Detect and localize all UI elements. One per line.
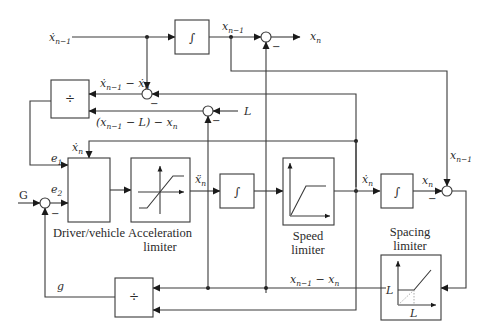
label-g: g xyxy=(57,280,64,293)
top-chain: ∫ − xyxy=(72,20,447,293)
label-x-prev-right: xn−1 xyxy=(450,149,472,164)
spacing-limiter-caption-2: limiter xyxy=(393,239,427,253)
divide-symbol: ÷ xyxy=(65,92,75,106)
summing-junction-G xyxy=(40,198,50,208)
label-xn-out: xn xyxy=(310,30,321,45)
minus-sign: − xyxy=(428,193,436,204)
minus-sign: − xyxy=(212,115,220,126)
block-diagram: ∫ − ẋn−1 xn−1 xn ÷ − − ẋn−1 − ẋn xyxy=(0,0,485,336)
label-L-input: L xyxy=(243,105,251,118)
divide-symbol: ÷ xyxy=(129,290,139,304)
integral-symbol: ∫ xyxy=(394,185,401,199)
summing-junction-gap-right xyxy=(442,186,452,196)
label-e2: e2 xyxy=(51,183,63,198)
label-xddot-n: ẍn xyxy=(195,173,206,188)
minus-sign: − xyxy=(272,41,280,52)
label-xn-right: xn xyxy=(422,174,433,189)
spacing-axis-label-y: L xyxy=(385,284,393,297)
speed-limiter-caption: Speed xyxy=(293,229,324,243)
acceleration-limiter-caption-2: limiter xyxy=(143,240,177,254)
driver-vehicle-caption: Driver/vehicle xyxy=(53,226,126,240)
junction-dot xyxy=(264,286,268,290)
signal-line-xdot-n-to-driver xyxy=(89,141,356,158)
spacing-limiter-caption: Spacing xyxy=(390,225,431,239)
label-xdot-n-right: ẋn xyxy=(362,173,373,188)
spacing-axis-label-x: L xyxy=(409,307,417,320)
speed-limiter-caption-2: limiter xyxy=(291,243,325,257)
signal-line-x-prev-right xyxy=(231,37,447,186)
summing-junction-top xyxy=(261,32,271,42)
integral-symbol: ∫ xyxy=(234,185,241,199)
label-gap: xn−1 − xn xyxy=(290,273,340,288)
driver-vehicle-block xyxy=(68,158,110,222)
label-e1: e1 xyxy=(51,152,62,167)
label-G: G xyxy=(19,189,28,202)
label-xdot-prev: ẋn−1 xyxy=(49,31,71,46)
label-x-prev-top: xn−1 xyxy=(222,20,244,35)
label-gap-minus-L: (xn−1 − L) − xn xyxy=(96,116,178,131)
label-rel-speed: ẋn−1 − ẋn xyxy=(100,77,150,92)
minus-sign: − xyxy=(150,98,158,109)
label-xdot-n-driver: ẋn xyxy=(72,141,83,156)
speed-limiter-block xyxy=(283,158,334,225)
acceleration-limiter-caption: Acceleration xyxy=(128,226,193,240)
integral-symbol: ∫ xyxy=(189,31,196,45)
minus-sign: − xyxy=(51,208,59,219)
signal-line-gap-to-spacing xyxy=(441,191,466,288)
